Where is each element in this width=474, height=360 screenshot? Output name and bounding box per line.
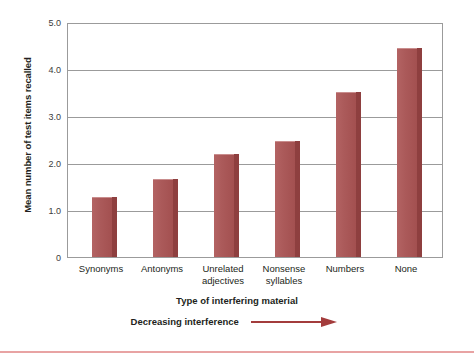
chart-figure: Mean number of test items recalled 5.0 4… — [0, 0, 474, 360]
bar-face — [397, 48, 417, 257]
arrow-head — [321, 317, 337, 327]
bottom-rule — [0, 351, 474, 353]
bar-face — [336, 92, 356, 257]
gridline-2 — [68, 164, 442, 165]
x-tick-label-none: None — [367, 263, 445, 275]
gridline-4 — [68, 70, 442, 71]
bar-nonsense-syllables — [275, 141, 300, 257]
y-tick-label-4: 4.0 — [33, 65, 61, 75]
bar-side — [173, 179, 178, 257]
x-axis-title: Type of interfering material — [0, 295, 474, 306]
bar-none — [397, 48, 422, 257]
bar-face — [92, 197, 112, 257]
y-tick-label-3: 3.0 — [33, 112, 61, 122]
bar-face — [275, 141, 295, 257]
gridline-1 — [68, 211, 442, 212]
y-tick-label-5: 5.0 — [33, 18, 61, 28]
x-tick-line: syllables — [245, 275, 323, 287]
bar-side — [295, 141, 300, 257]
y-tick-label-1: 1.0 — [33, 206, 61, 216]
bar-synonyms — [92, 197, 117, 257]
bar-numbers — [336, 92, 361, 257]
bar-side — [234, 154, 239, 257]
bar-face — [214, 154, 234, 257]
interference-annotation-label: Decreasing interference — [131, 316, 239, 327]
bar-antonyms — [153, 179, 178, 257]
x-tick-line: None — [367, 263, 445, 275]
bar-face — [153, 179, 173, 257]
y-axis-title: Mean number of test items recalled — [21, 50, 35, 220]
right-arrow-icon — [251, 317, 343, 327]
plot-area — [67, 23, 443, 258]
gridline-3 — [68, 117, 442, 118]
bar-unrelated-adjectives — [214, 154, 239, 257]
arrow-shaft — [251, 321, 327, 323]
bar-side — [112, 197, 117, 257]
y-tick-label-0: 0 — [33, 253, 61, 263]
bar-side — [417, 48, 422, 257]
interference-annotation-inner: Decreasing interference — [131, 316, 344, 327]
interference-annotation: Decreasing interference — [0, 316, 474, 327]
y-tick-label-2: 2.0 — [33, 159, 61, 169]
bar-side — [356, 92, 361, 257]
